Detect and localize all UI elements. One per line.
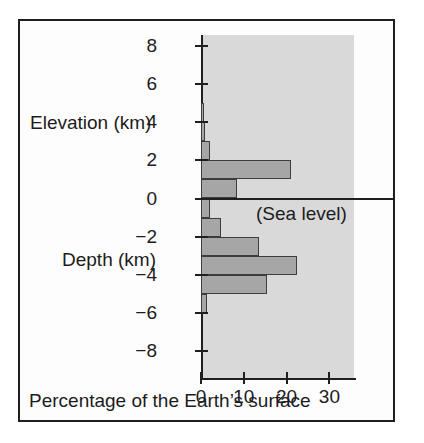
x-tick [286,372,288,384]
y-tick [195,159,208,161]
bar [201,122,205,141]
y-tick-label: −2 [135,227,157,246]
elevation-axis-label: Elevation (km) [30,113,151,133]
y-tick [195,121,208,123]
chart-figure: 86420−2−4−6−8 0102030 (Sea level) Elevat… [18,19,395,422]
bar [201,160,291,179]
y-tick-label: 0 [146,189,157,208]
x-axis-caption: Percentage of the Earth’s surface [29,390,311,412]
bar [201,256,297,275]
sea-level-label: (Sea level) [256,204,347,224]
y-tick-label: −6 [135,303,157,322]
x-tick [200,372,202,384]
x-tick-label: 30 [309,387,349,406]
bar [201,179,237,198]
depth-axis-label: Depth (km) [62,250,156,270]
x-axis-line [201,378,356,380]
y-tick [195,83,208,85]
y-tick-label: 6 [146,74,157,93]
bar [201,237,259,256]
bar [201,218,221,237]
x-tick [243,372,245,384]
sea-level-line [201,198,394,200]
bar [201,199,210,218]
y-tick-label: 8 [146,36,157,55]
y-tick-label: −8 [135,341,157,360]
y-tick [195,274,208,276]
y-tick [195,312,208,314]
x-tick [328,372,330,384]
bar [201,141,210,160]
y-tick [195,350,208,352]
bar [201,103,204,122]
bar [201,294,207,313]
y-tick-label: 2 [146,150,157,169]
y-tick [195,45,208,47]
bar [201,275,267,294]
y-tick [195,236,208,238]
